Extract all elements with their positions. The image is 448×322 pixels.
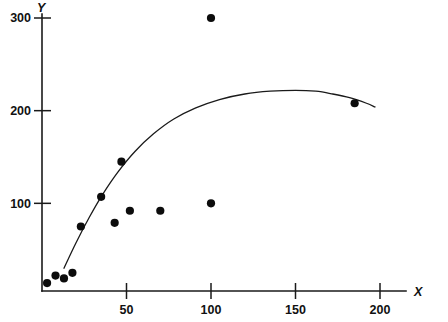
data-point	[77, 222, 85, 230]
data-point	[111, 219, 119, 227]
x-tick-label: 50	[120, 303, 134, 317]
y-tick-label: 200	[10, 104, 31, 118]
y-axis-ticks: 100200300	[10, 11, 51, 210]
x-axis-title: X	[413, 285, 423, 299]
y-tick-label: 100	[10, 197, 31, 211]
data-point	[68, 269, 76, 277]
data-point	[207, 199, 215, 207]
data-point	[43, 279, 51, 287]
plot-canvas: Y X 100200300 50100150200	[0, 0, 448, 322]
data-point	[207, 14, 215, 22]
data-point	[51, 272, 59, 280]
data-point	[60, 274, 68, 282]
fitted-curve-group	[64, 90, 375, 268]
x-tick-label: 150	[285, 303, 306, 317]
data-point	[156, 207, 164, 215]
data-points-group	[43, 14, 359, 287]
x-axis-ticks: 50100150200	[120, 283, 391, 317]
y-tick-label: 300	[10, 11, 31, 25]
scatter-plot-figure: Y X 100200300 50100150200	[0, 0, 448, 322]
data-point	[351, 99, 359, 107]
x-tick-label: 100	[201, 303, 222, 317]
data-point	[117, 158, 125, 166]
fitted-curve	[64, 90, 375, 268]
data-point	[97, 193, 105, 201]
y-axis-title: Y	[37, 1, 47, 15]
x-tick-label: 200	[370, 303, 391, 317]
data-point	[126, 207, 134, 215]
